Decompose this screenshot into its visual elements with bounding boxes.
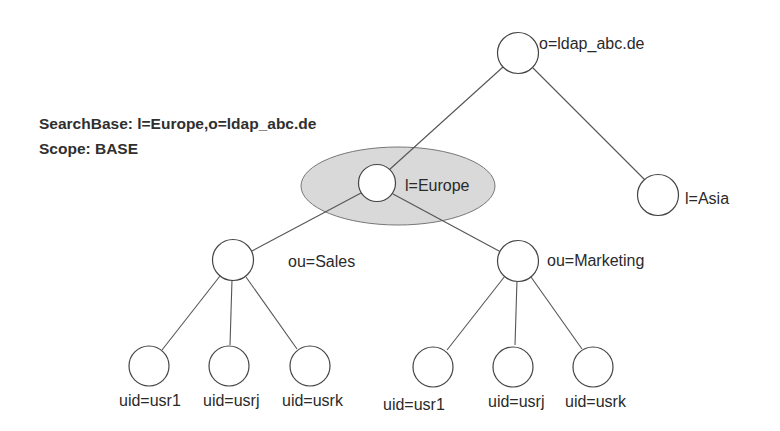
label-root: o=ldap_abc.de [539, 36, 644, 52]
node-root [498, 33, 539, 74]
label-marketing-usr1: uid=usr1 [383, 397, 445, 413]
node-europe [359, 165, 396, 202]
label-sales-usrk: uid=usrk [282, 393, 343, 409]
node-sales [213, 240, 254, 281]
edge-sales-usr1 [162, 276, 220, 350]
node-asia [638, 175, 679, 216]
node-sales-usrj [209, 346, 249, 386]
edge-europe-sales [252, 193, 361, 251]
node-sales-usrk [290, 346, 330, 386]
node-marketing-usrk [573, 347, 613, 387]
searchbase-text: SearchBase: l=Europe,o=ldap_abc.de [39, 116, 316, 132]
label-marketing: ou=Marketing [547, 253, 644, 269]
node-sales-usr1 [129, 346, 169, 386]
edge-sales-usrk [246, 277, 297, 349]
node-marketing [498, 241, 539, 282]
label-marketing-usrj: uid=usrj [488, 394, 544, 410]
edge-marketing-usr1 [447, 276, 505, 350]
label-sales-usrj: uid=usrj [203, 393, 259, 409]
label-sales-usr1: uid=usr1 [119, 393, 181, 409]
scope-text: Scope: BASE [39, 141, 138, 157]
node-marketing-usr1 [413, 347, 453, 387]
edge-marketing-usrj [515, 280, 517, 345]
edge-root-asia [533, 68, 645, 180]
edge-sales-usrj [230, 280, 232, 345]
label-sales: ou=Sales [288, 254, 355, 270]
edge-marketing-usrk [531, 277, 582, 349]
ldap-tree-diagram [0, 0, 780, 431]
label-europe: l=Europe [405, 178, 470, 194]
label-asia: l=Asia [685, 191, 729, 207]
label-marketing-usrk: uid=usrk [565, 394, 626, 410]
node-marketing-usrj [493, 347, 533, 387]
